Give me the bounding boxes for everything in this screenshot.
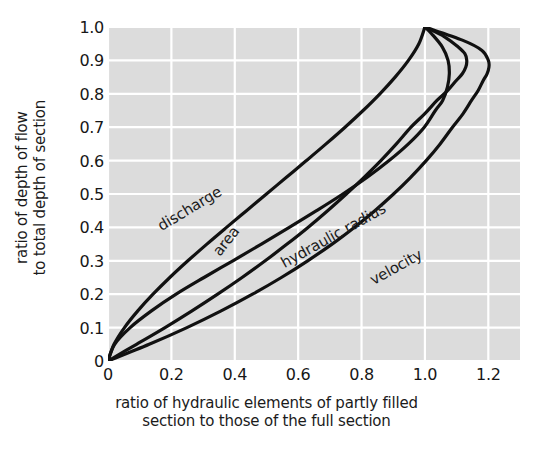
x-tick-label: 1.0: [413, 365, 438, 384]
x-axis-ticks: 00.20.40.60.81.01.2: [108, 365, 520, 391]
y-axis-label-line1: ratio of depth of flow: [14, 8, 32, 368]
y-axis-ticks: 00.10.20.30.40.50.60.70.80.91.0: [56, 0, 104, 455]
y-tick-label: 0.3: [58, 251, 104, 270]
y-tick-label: 1.0: [58, 18, 104, 37]
y-tick-label: 0.9: [58, 51, 104, 70]
y-tick-label: 0.6: [58, 151, 104, 170]
hydraulic-elements-chart: ratio of depth of flow to total depth of…: [0, 0, 533, 455]
y-tick-label: 0.7: [58, 118, 104, 137]
plot-svg: [108, 27, 520, 361]
y-axis-label: ratio of depth of flow to total depth of…: [14, 8, 49, 368]
plot-area: [108, 27, 520, 361]
x-axis-label: ratio of hydraulic elements of partly fi…: [0, 394, 533, 430]
x-axis-label-line2: section to those of the full section: [0, 412, 533, 430]
x-tick-label: 0.8: [349, 365, 374, 384]
x-tick-label: 0.6: [286, 365, 311, 384]
y-tick-label: 0.1: [58, 318, 104, 337]
x-axis-label-line1: ratio of hydraulic elements of partly fi…: [0, 394, 533, 412]
y-axis-label-line2: to total depth of section: [32, 8, 50, 368]
y-tick-label: 0: [58, 352, 104, 371]
y-tick-label: 0.4: [58, 218, 104, 237]
y-tick-label: 0.2: [58, 285, 104, 304]
x-tick-label: 0.4: [222, 365, 247, 384]
y-tick-label: 0.5: [58, 185, 104, 204]
x-tick-label: 0.2: [159, 365, 184, 384]
x-tick-label: 0: [103, 365, 113, 384]
y-tick-label: 0.8: [58, 84, 104, 103]
x-tick-label: 1.2: [476, 365, 501, 384]
